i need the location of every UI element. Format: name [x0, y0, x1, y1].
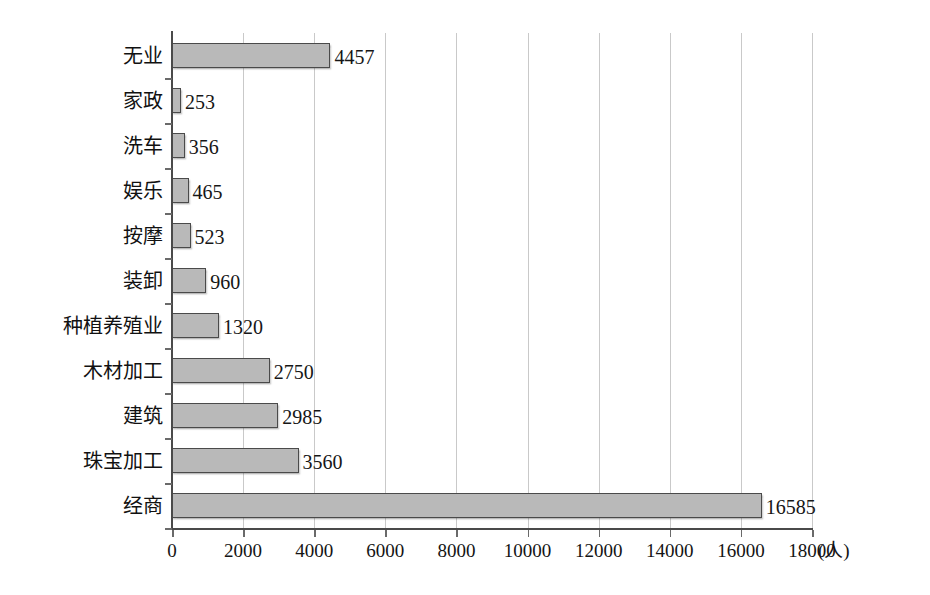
category-label: 娱乐: [0, 181, 163, 201]
x-tick: [456, 530, 458, 537]
bar-value-label: 356: [189, 137, 219, 157]
gridline-16000: [741, 33, 742, 528]
x-tick: [385, 530, 387, 537]
bar: [172, 43, 330, 68]
bar: [172, 178, 189, 203]
gridline-8000: [456, 33, 457, 528]
horizontal-bar-chart: 4457253356465523960132027502985356016585…: [0, 0, 930, 595]
x-axis-unit-label: (人): [818, 541, 850, 560]
x-axis-line: [171, 528, 813, 530]
x-tick-label: 8000: [437, 541, 475, 560]
bar-value-label: 4457: [334, 47, 374, 67]
x-tick: [528, 530, 530, 537]
x-tick-label: 16000: [717, 541, 765, 560]
y-tick: [165, 303, 172, 305]
x-tick: [670, 530, 672, 537]
x-tick: [243, 530, 245, 537]
x-tick: [812, 530, 814, 537]
y-tick: [165, 393, 172, 395]
plot-area: 4457253356465523960132027502985356016585: [172, 33, 812, 528]
bar-value-label: 16585: [766, 497, 816, 517]
y-axis-line: [171, 31, 173, 530]
category-label: 木材加工: [0, 361, 163, 381]
y-tick: [165, 483, 172, 485]
category-label: 珠宝加工: [0, 451, 163, 471]
x-tick: [172, 530, 174, 537]
y-tick: [165, 78, 172, 80]
category-label: 家政: [0, 91, 163, 111]
x-tick-label: 14000: [646, 541, 694, 560]
bar-value-label: 523: [195, 227, 225, 247]
y-tick: [165, 528, 172, 530]
bar-value-label: 2985: [282, 407, 322, 427]
category-label: 建筑: [0, 406, 163, 426]
x-tick: [599, 530, 601, 537]
category-label: 按摩: [0, 226, 163, 246]
bar: [172, 88, 181, 113]
bar-value-label: 465: [193, 182, 223, 202]
gridline-10000: [528, 33, 529, 528]
gridline-18000: [812, 33, 813, 528]
bar-value-label: 960: [210, 272, 240, 292]
x-tick-label: 6000: [366, 541, 404, 560]
x-tick-label: 4000: [295, 541, 333, 560]
bar-value-label: 253: [185, 92, 215, 112]
bar: [172, 268, 206, 293]
y-tick: [165, 348, 172, 350]
bar: [172, 133, 185, 158]
gridline-12000: [599, 33, 600, 528]
category-label: 洗车: [0, 136, 163, 156]
category-label: 装卸: [0, 271, 163, 291]
x-tick-label: 10000: [504, 541, 552, 560]
category-label: 无业: [0, 46, 163, 66]
x-tick-label: 0: [167, 541, 177, 560]
x-tick: [314, 530, 316, 537]
category-axis-labels: 无业家政洗车娱乐按摩装卸种植养殖业木材加工建筑珠宝加工经商: [0, 33, 163, 528]
y-tick: [165, 438, 172, 440]
bar: [172, 493, 762, 518]
y-tick: [165, 123, 172, 125]
bar: [172, 313, 219, 338]
bar-value-label: 2750: [274, 362, 314, 382]
bar-value-label: 1320: [223, 317, 263, 337]
x-tick: [741, 530, 743, 537]
bar: [172, 223, 191, 248]
x-tick-label: 12000: [575, 541, 623, 560]
gridline-14000: [670, 33, 671, 528]
bar: [172, 358, 270, 383]
y-tick: [165, 258, 172, 260]
x-tick-label: 2000: [224, 541, 262, 560]
y-tick: [165, 168, 172, 170]
bar-value-label: 3560: [303, 452, 343, 472]
bar: [172, 403, 278, 428]
category-label: 经商: [0, 496, 163, 516]
category-label: 种植养殖业: [0, 316, 163, 336]
y-tick: [165, 213, 172, 215]
gridline-6000: [385, 33, 386, 528]
bar: [172, 448, 299, 473]
